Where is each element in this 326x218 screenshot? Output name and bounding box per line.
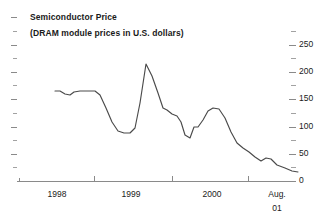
y-tick-label-250: 250: [299, 39, 313, 49]
x-tick-label-01: 01: [258, 203, 296, 213]
chart-subtitle: (DRAM module prices in U.S. dollars): [30, 28, 184, 38]
y-tick-label-50: 50: [299, 148, 308, 158]
x-axis-ticks: [20, 176, 249, 182]
x-tick-label-2000: 2000: [192, 189, 232, 199]
chart-title: Semiconductor Price: [30, 12, 117, 22]
y-tick-label-200: 200: [299, 66, 313, 76]
y-tick-label-100: 100: [299, 121, 313, 131]
x-tick-label-aug: Aug.: [258, 189, 296, 199]
y-tick-label-150: 150: [299, 93, 313, 103]
right-axis-ticks: [289, 32, 296, 182]
x-tick-label-1999: 1999: [111, 189, 151, 199]
x-tick-label-1998: 1998: [37, 189, 77, 199]
left-axis-ticks: [11, 18, 17, 168]
chart-container: Semiconductor Price (DRAM module prices …: [0, 0, 326, 218]
price-line: [55, 64, 298, 172]
y-tick-label-0: 0: [299, 175, 304, 185]
